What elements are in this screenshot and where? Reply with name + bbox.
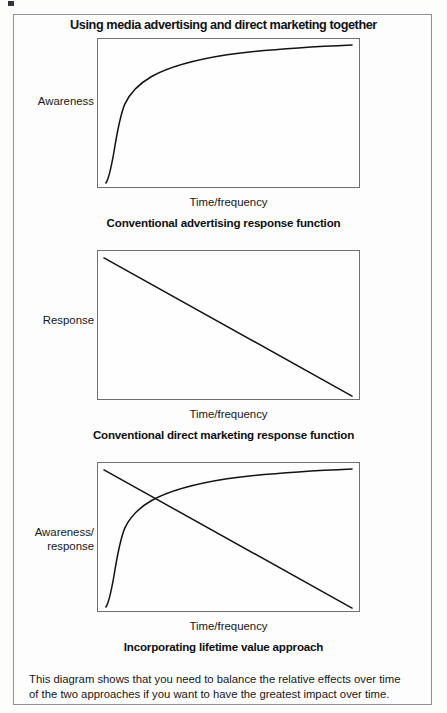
chart1-curve-svg (98, 39, 359, 187)
chart2-curve-svg (98, 251, 359, 399)
response-decline-line (104, 258, 352, 396)
chart1-y-axis-label: Awareness (12, 95, 94, 109)
chart1-caption: Conventional advertising response functi… (0, 216, 447, 229)
response-decline-line (104, 470, 352, 608)
chart1-plot-area (97, 38, 360, 188)
chart2-caption: Conventional direct marketing response f… (0, 428, 447, 441)
page-title: Using media advertising and direct marke… (10, 17, 437, 32)
explanatory-note: This diagram shows that you need to bala… (29, 672, 419, 702)
scan-speck (8, 1, 14, 6)
chart3-plot-area (97, 462, 360, 612)
explanatory-note-line2: of the two approaches if you want to hav… (29, 687, 419, 702)
explanatory-note-line1: This diagram shows that you need to bala… (29, 672, 419, 687)
chart2-plot-area (97, 250, 360, 400)
chart3-y-axis-label-line1: Awareness/ (35, 526, 94, 538)
chart1-x-axis-label: Time/frequency (97, 196, 360, 208)
chart3-curves-svg (98, 463, 359, 611)
awareness-curve (106, 45, 352, 183)
chart2-y-axis-label: Response (12, 314, 94, 328)
awareness-curve (106, 469, 352, 607)
chart3-y-axis-label-line2: response (47, 540, 94, 552)
chart3-x-axis-label: Time/frequency (97, 620, 360, 632)
chart3-caption: Incorporating lifetime value approach (0, 640, 447, 653)
chart3-y-axis-label: Awareness/ response (12, 526, 94, 553)
diagram-page: Using media advertising and direct marke… (0, 0, 447, 713)
chart2-x-axis-label: Time/frequency (97, 408, 360, 420)
